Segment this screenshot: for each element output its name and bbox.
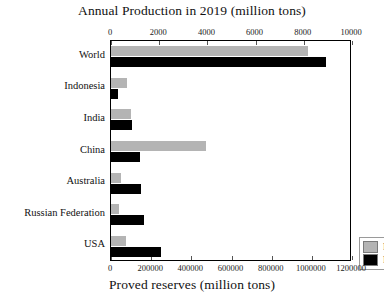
bar-production [111,204,119,214]
bar-production [111,236,126,246]
category-label: India [0,112,105,123]
tick-label: 600000 [218,263,244,273]
tick-label: 200000 [137,263,163,273]
category-label: Australia [0,175,105,186]
bar-production [111,46,308,56]
tick-label: 1200000 [336,263,366,273]
legend-item-reserves: Proved reserves [363,253,384,266]
bar-production [111,109,131,119]
legend-item-production: Production 2019 [363,240,384,253]
bar-reserves [111,57,326,67]
tick-label: 0 [108,263,112,273]
tick-mark [207,41,208,45]
tick-label: 800000 [258,263,284,273]
tick-mark [191,256,192,260]
tick-mark [352,256,353,260]
bar-production [111,78,127,88]
tick-label: 4000 [198,27,215,37]
tick-mark [312,256,313,260]
tick-label: 6000 [246,27,263,37]
category-label: World [0,49,105,60]
bar-production [111,173,121,183]
plot-area: Production 2019 Proved reserves [110,40,351,261]
tick-label: 0 [108,27,112,37]
category-label: USA [0,238,105,249]
bar-chart: Annual Production in 2019 (million tons)… [0,0,384,304]
tick-label: 400000 [178,263,204,273]
bar-production [111,141,206,151]
tick-mark [232,256,233,260]
tick-mark [304,41,305,45]
category-label: Russian Federation [0,207,105,218]
bar-reserves [111,120,132,130]
category-label: China [0,144,105,155]
tick-label: 10000 [340,27,361,37]
tick-mark [159,41,160,45]
bar-reserves [111,89,118,99]
tick-label: 8000 [294,27,311,37]
tick-mark [352,41,353,45]
tick-label: 2000 [150,27,167,37]
category-label: Indonesia [0,80,105,91]
tick-mark [256,41,257,45]
tick-mark [111,41,112,45]
tick-mark [272,256,273,260]
bar-reserves [111,247,161,257]
bar-reserves [111,215,144,225]
bar-reserves [111,184,141,194]
tick-label: 1000000 [296,263,326,273]
bottom-axis-title: Proved reserves (million tons) [0,277,384,293]
legend-swatch-production-icon [363,241,378,253]
top-axis-title: Annual Production in 2019 (million tons) [0,3,384,19]
bar-reserves [111,152,140,162]
